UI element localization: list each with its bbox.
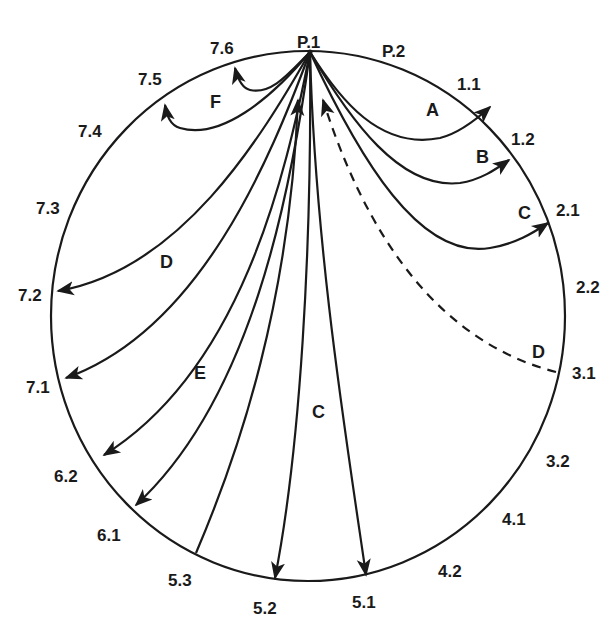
path-labels: ABCDDECF [160, 92, 545, 422]
route-7-1 [66, 52, 310, 378]
path-label-c-right: C [518, 203, 531, 223]
position-label-p2: P.2 [382, 42, 405, 61]
position-label-7_3: 7.3 [36, 199, 60, 218]
position-label-6_1: 6.1 [97, 526, 121, 545]
route-D-left [58, 52, 310, 291]
position-label-3_1: 3.1 [572, 364, 596, 383]
position-label-2_2: 2.2 [576, 278, 600, 297]
position-label-p1: P.1 [297, 33, 320, 52]
position-labels: P.1P.21.11.22.12.23.13.24.14.25.15.25.36… [18, 33, 600, 618]
position-label-7_5: 7.5 [138, 70, 162, 89]
path-label-e: E [194, 363, 206, 383]
path-label-a-upper: A [426, 100, 439, 120]
route-5-1 [310, 52, 366, 575]
path-label-d-right: D [532, 342, 545, 362]
position-label-5_1: 5.1 [352, 593, 376, 612]
position-label-4_2: 4.2 [438, 562, 462, 581]
position-label-7_4: 7.4 [78, 122, 102, 141]
position-label-7_1: 7.1 [26, 378, 50, 397]
position-label-5_2: 5.2 [253, 599, 277, 618]
path-label-d-left: D [160, 252, 173, 272]
position-label-4_1: 4.1 [502, 510, 526, 529]
path-label-c-mid: C [312, 402, 325, 422]
route-diagram: P.1P.21.11.22.12.23.13.24.14.25.15.25.36… [0, 0, 613, 635]
position-label-1_2: 1.2 [511, 130, 535, 149]
outer-circle [51, 51, 565, 581]
position-label-7_6: 7.6 [210, 39, 234, 58]
position-label-6_2: 6.2 [54, 467, 78, 486]
routes-group [58, 52, 556, 578]
position-label-5_3: 5.3 [168, 571, 192, 590]
position-label-7_2: 7.2 [18, 286, 42, 305]
path-label-b: B [476, 147, 489, 167]
position-label-2_1: 2.1 [556, 201, 580, 220]
path-label-f: F [210, 92, 221, 112]
route-6-2 [104, 52, 310, 455]
position-label-1_1: 1.1 [457, 75, 481, 94]
position-label-3_2: 3.2 [546, 452, 570, 471]
